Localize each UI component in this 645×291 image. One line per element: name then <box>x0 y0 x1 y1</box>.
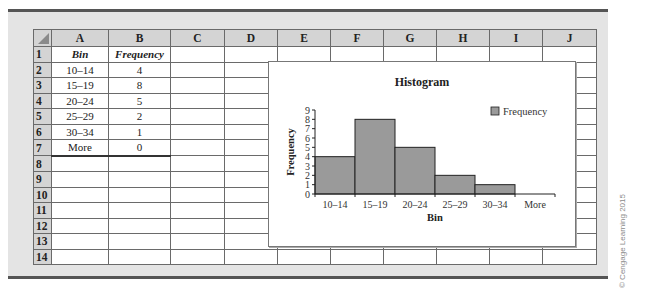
histogram-bar <box>435 175 475 194</box>
row-header-2[interactable]: 2 <box>34 62 52 78</box>
row-header-4[interactable]: 4 <box>34 93 52 109</box>
cell-B7[interactable]: 0 <box>109 140 171 156</box>
cell-C14[interactable] <box>171 249 225 265</box>
row-header-5[interactable]: 5 <box>34 109 52 125</box>
row-header-9[interactable]: 9 <box>34 172 52 188</box>
row-header-1[interactable]: 1 <box>34 47 52 63</box>
x-tick-label: 20–24 <box>403 199 428 210</box>
cell-I1[interactable] <box>490 47 543 63</box>
cell-A6[interactable]: 30–34 <box>52 124 109 140</box>
cell-A3[interactable]: 15–19 <box>52 78 109 94</box>
row-header-12[interactable]: 12 <box>34 218 52 234</box>
x-tick-label: 15–19 <box>363 199 388 210</box>
x-tick-label: 25–29 <box>443 199 468 210</box>
row-header-13[interactable]: 13 <box>34 234 52 250</box>
select-all-corner[interactable] <box>34 30 52 47</box>
cell-C10[interactable] <box>171 187 225 203</box>
cell-A11[interactable] <box>52 203 109 219</box>
column-header-E[interactable]: E <box>278 30 331 47</box>
cell-B9[interactable] <box>109 172 171 188</box>
cell-A8[interactable] <box>52 156 109 172</box>
cell-C8[interactable] <box>171 156 225 172</box>
cell-B12[interactable] <box>109 218 171 234</box>
cell-B1[interactable]: Frequency <box>109 47 171 63</box>
cell-G14[interactable] <box>384 249 437 265</box>
histogram-plot: Histogram012345678910–1415–1920–2425–293… <box>269 62 575 246</box>
row-header-14[interactable]: 14 <box>34 249 52 265</box>
x-tick-label: 30–34 <box>483 199 508 210</box>
cell-G1[interactable] <box>384 47 437 63</box>
column-header-B[interactable]: B <box>109 30 171 47</box>
cell-B3[interactable]: 8 <box>109 78 171 94</box>
cell-C13[interactable] <box>171 234 225 250</box>
cell-B10[interactable] <box>109 187 171 203</box>
cell-A4[interactable]: 20–24 <box>52 93 109 109</box>
cell-B8[interactable] <box>109 156 171 172</box>
cell-B2[interactable]: 4 <box>109 62 171 78</box>
cell-I14[interactable] <box>490 249 543 265</box>
bottom-rule <box>8 276 608 279</box>
cell-C12[interactable] <box>171 218 225 234</box>
row-header-11[interactable]: 11 <box>34 203 52 219</box>
cell-C7[interactable] <box>171 140 225 156</box>
cell-C5[interactable] <box>171 109 225 125</box>
cell-D1[interactable] <box>225 47 278 63</box>
cell-C11[interactable] <box>171 203 225 219</box>
cell-B11[interactable] <box>109 203 171 219</box>
cell-J1[interactable] <box>543 47 597 63</box>
cell-A5[interactable]: 25–29 <box>52 109 109 125</box>
cell-C1[interactable] <box>171 47 225 63</box>
cell-A12[interactable] <box>52 218 109 234</box>
cell-C3[interactable] <box>171 78 225 94</box>
cell-A2[interactable]: 10–14 <box>52 62 109 78</box>
cell-F14[interactable] <box>331 249 384 265</box>
row-header-7[interactable]: 7 <box>34 140 52 156</box>
column-header-A[interactable]: A <box>52 30 109 47</box>
legend-label: Frequency <box>503 106 548 117</box>
cell-H14[interactable] <box>437 249 490 265</box>
column-header-H[interactable]: H <box>437 30 490 47</box>
x-tick-label: More <box>524 199 546 210</box>
row-header-10[interactable]: 10 <box>34 187 52 203</box>
x-axis-title: Bin <box>427 212 443 223</box>
cell-E14[interactable] <box>278 249 331 265</box>
cell-D14[interactable] <box>225 249 278 265</box>
cell-E1[interactable] <box>278 47 331 63</box>
cell-H1[interactable] <box>437 47 490 63</box>
cell-A10[interactable] <box>52 187 109 203</box>
cell-C6[interactable] <box>171 124 225 140</box>
row-header-3[interactable]: 3 <box>34 78 52 94</box>
column-header-C[interactable]: C <box>171 30 225 47</box>
column-header-J[interactable]: J <box>543 30 597 47</box>
cell-A13[interactable] <box>52 234 109 250</box>
histogram-bar <box>395 147 435 194</box>
column-header-D[interactable]: D <box>225 30 278 47</box>
cell-B14[interactable] <box>109 249 171 265</box>
copyright-notice: © Cengage Learning 2015 <box>618 194 627 288</box>
cell-B4[interactable]: 5 <box>109 93 171 109</box>
row-header-6[interactable]: 6 <box>34 124 52 140</box>
cell-C2[interactable] <box>171 62 225 78</box>
legend-swatch-icon <box>491 107 499 115</box>
histogram-bar <box>315 157 355 194</box>
cell-J14[interactable] <box>543 249 597 265</box>
chart-title: Histogram <box>395 75 450 89</box>
cell-A14[interactable] <box>52 249 109 265</box>
cell-A1[interactable]: Bin <box>52 47 109 63</box>
cell-C9[interactable] <box>171 172 225 188</box>
top-rule <box>8 9 608 12</box>
column-header-I[interactable]: I <box>490 30 543 47</box>
y-axis-title: Frequency <box>285 127 296 175</box>
cell-C4[interactable] <box>171 93 225 109</box>
cell-F1[interactable] <box>331 47 384 63</box>
histogram-chart[interactable]: Histogram012345678910–1415–1920–2425–293… <box>268 61 576 247</box>
cell-B5[interactable]: 2 <box>109 109 171 125</box>
cell-A9[interactable] <box>52 172 109 188</box>
row-header-8[interactable]: 8 <box>34 156 52 172</box>
select-all-icon <box>38 33 49 44</box>
cell-B6[interactable]: 1 <box>109 124 171 140</box>
column-header-G[interactable]: G <box>384 30 437 47</box>
cell-A7[interactable]: More <box>52 140 109 156</box>
column-header-F[interactable]: F <box>331 30 384 47</box>
cell-B13[interactable] <box>109 234 171 250</box>
